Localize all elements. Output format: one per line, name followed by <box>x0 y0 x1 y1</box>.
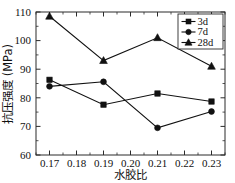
compressive-strength-chart: 607080901001100.170.180.190.200.210.220.… <box>0 0 235 183</box>
chart-text-layer: 抗压强度 (MPa) 水胶比 <box>0 0 235 183</box>
y-axis-title: 抗压强度 (MPa) <box>1 44 15 124</box>
x-axis-title: 水胶比 <box>114 168 147 182</box>
